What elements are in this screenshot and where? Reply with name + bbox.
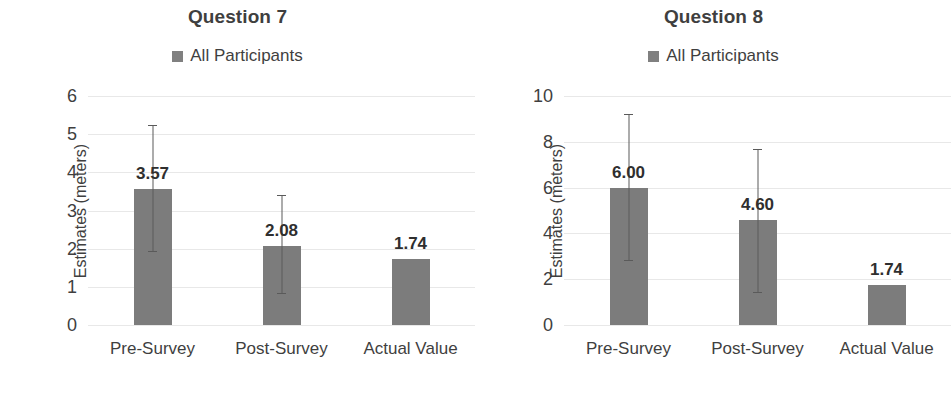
- chart-panel-question-8: Question 8 All Participants Estimates (m…: [476, 0, 951, 395]
- bar[interactable]: [392, 259, 430, 325]
- bar-group: 1.74Actual Value: [822, 96, 951, 325]
- x-axis-tick-label: Post-Survey: [235, 339, 328, 359]
- legend-label: All Participants: [190, 46, 302, 66]
- chart-panel-question-7: Question 7 All Participants Estimates (m…: [0, 0, 475, 395]
- error-bar: [757, 149, 758, 293]
- y-axis-tick-label: 4: [543, 223, 553, 244]
- y-axis-tick-label: 8: [543, 131, 553, 152]
- y-axis-tick-label: 2: [543, 269, 553, 290]
- bar[interactable]: [868, 285, 906, 325]
- y-axis-tick-label: 0: [67, 315, 77, 336]
- error-bar: [281, 195, 282, 294]
- y-axis-tick-label: 6: [67, 86, 77, 107]
- bar-value-label: 2.08: [265, 221, 298, 241]
- y-axis-tick-label: 0: [543, 315, 553, 336]
- chart-legend: All Participants: [0, 46, 475, 66]
- y-axis-tick-label: 1: [67, 276, 77, 297]
- y-axis-tick-label: 4: [67, 162, 77, 183]
- legend-label: All Participants: [666, 46, 778, 66]
- x-axis-tick-label: Pre-Survey: [110, 339, 195, 359]
- y-axis-tick-label: 10: [533, 86, 553, 107]
- bar-group: 6.00Pre-Survey: [564, 96, 693, 325]
- legend-square-icon: [648, 51, 659, 62]
- bar-value-label: 1.74: [870, 260, 903, 280]
- bar-group: 1.74Actual Value: [346, 96, 475, 325]
- bar-group: 2.08Post-Survey: [217, 96, 346, 325]
- y-axis-tick-label: 3: [67, 200, 77, 221]
- bar-group: 3.57Pre-Survey: [88, 96, 217, 325]
- chart-legend: All Participants: [476, 46, 951, 66]
- bar-value-label: 4.60: [741, 195, 774, 215]
- y-axis-tick-label: 6: [543, 177, 553, 198]
- x-axis-tick-label: Actual Value: [839, 339, 933, 359]
- chart-page: Question 7 All Participants Estimates (m…: [0, 0, 951, 395]
- bar-group: 4.60Post-Survey: [693, 96, 822, 325]
- plot-area-question-8: 10864206.00Pre-Survey4.60Post-Survey1.74…: [564, 96, 951, 325]
- error-bar: [152, 125, 153, 253]
- error-bar: [628, 114, 629, 261]
- chart-title: Question 8: [476, 6, 951, 28]
- legend-square-icon: [172, 51, 183, 62]
- bar-value-label: 3.57: [136, 164, 169, 184]
- x-axis-tick-label: Post-Survey: [711, 339, 804, 359]
- x-axis-tick-label: Pre-Survey: [586, 339, 671, 359]
- x-axis-tick-label: Actual Value: [363, 339, 457, 359]
- chart-title: Question 7: [0, 6, 475, 28]
- y-axis-tick-label: 2: [67, 238, 77, 259]
- y-axis-tick-label: 5: [67, 124, 77, 145]
- bar-value-label: 6.00: [612, 163, 645, 183]
- gridline: [564, 325, 951, 326]
- gridline: [88, 325, 475, 326]
- bar-value-label: 1.74: [394, 234, 427, 254]
- plot-area-question-7: 65432103.57Pre-Survey2.08Post-Survey1.74…: [88, 96, 475, 325]
